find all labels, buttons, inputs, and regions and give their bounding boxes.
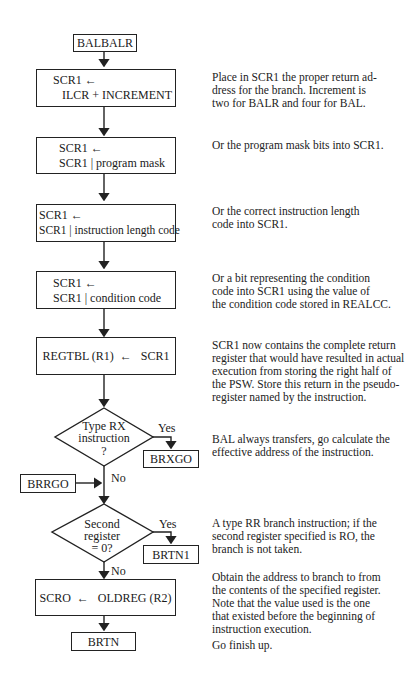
description-1: Place in SCR1 the proper return ad- dres…	[212, 71, 419, 110]
step-final-text: SCRO ← OLDREG (R2)	[36, 591, 175, 605]
step-4-line2: SCR1 | condition code	[53, 291, 161, 305]
start-box-balbalr: BALBALR	[73, 34, 137, 52]
start-label: BALBALR	[74, 36, 136, 50]
description-5: SCR1 now contains the complete return re…	[212, 339, 419, 404]
decision-2-yes-label: Yes	[159, 518, 176, 531]
step-box-3: SCR1 ← SCR1 | instruction length code	[36, 204, 176, 242]
brrgo-label: BRRGO	[21, 477, 75, 491]
description-7: A type RR branch instruction; if the sec…	[212, 517, 419, 556]
entry-box-brrgo: BRRGO	[20, 474, 76, 493]
decision-1-yes-label: Yes	[158, 422, 175, 435]
step-box-final-oldreg: SCRO ← OLDREG (R2)	[35, 579, 176, 616]
brtn1-label: BRTN1	[144, 548, 198, 562]
step-1-line2: ILCR + INCREMENT	[62, 88, 172, 102]
decision-2-line3: = 0?	[62, 542, 142, 555]
description-3: Or the correct instruction length code i…	[212, 205, 419, 231]
description-4: Or a bit representing the condition code…	[212, 272, 419, 311]
target-box-brtn1: BRTN1	[143, 545, 199, 564]
step-box-5-regtbl: REGTBL (R1) ← SCR1	[36, 337, 176, 375]
step-5-text: REGTBL (R1) ← SCR1	[37, 349, 175, 363]
step-1-line1: SCR1 ←	[53, 73, 97, 87]
step-box-1: SCR1 ← ILCR + INCREMENT	[36, 69, 176, 107]
step-2-line1: SCR1 ←	[59, 141, 103, 155]
step-2-line2: SCR1 | program mask	[59, 156, 165, 170]
step-box-2: SCR1 ← SCR1 | program mask	[36, 137, 176, 174]
step-box-4: SCR1 ← SCR1 | condition code	[36, 271, 176, 309]
decision-1-no-label: No	[111, 472, 126, 485]
decision-2-no-label: No	[111, 565, 126, 578]
description-8: Obtain the address to branch to from the…	[212, 571, 419, 636]
step-3-line2: SCR1 | instruction length code	[39, 223, 180, 237]
brtn-label: BRTN	[72, 635, 135, 649]
step-3-line1: SCR1 ←	[39, 208, 83, 222]
description-6: BAL always transfers, go calculate the e…	[212, 433, 419, 459]
step-4-line1: SCR1 ←	[53, 276, 97, 290]
brxgo-label: BRXGO	[144, 452, 198, 466]
target-box-brxgo: BRXGO	[143, 450, 199, 468]
end-box-brtn: BRTN	[71, 632, 136, 651]
decision-1-line3: ?	[64, 445, 144, 458]
description-2: Or the program mask bits into SCR1.	[212, 139, 419, 152]
description-9: Go finish up.	[212, 639, 419, 652]
